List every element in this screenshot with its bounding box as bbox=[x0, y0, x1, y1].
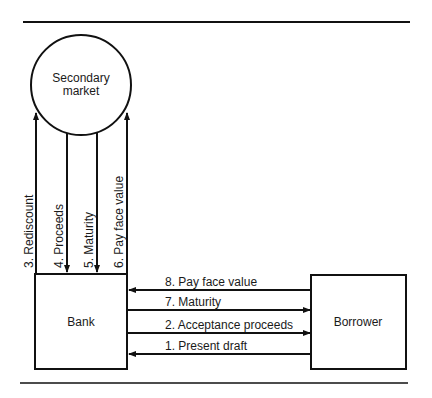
secondary-market-label-1: Secondary bbox=[52, 71, 109, 85]
label-pay-face-value-vertical: 6. Pay face value bbox=[112, 176, 126, 268]
label-acceptance-proceeds: 2. Acceptance proceeds bbox=[165, 318, 293, 332]
secondary-market-label-2: market bbox=[63, 84, 100, 98]
bank-node: Bank bbox=[35, 274, 127, 369]
bank-label: Bank bbox=[67, 315, 95, 329]
diagram-canvas: Secondary market 3. Rediscount 4. Procee… bbox=[0, 0, 432, 398]
label-maturity-vertical: 5. Maturity bbox=[82, 212, 96, 268]
label-rediscount: 3. Rediscount bbox=[22, 194, 36, 268]
borrower-label: Borrower bbox=[334, 315, 383, 329]
label-proceeds: 4. Proceeds bbox=[52, 204, 66, 268]
label-present-draft: 1. Present draft bbox=[165, 339, 248, 353]
borrower-node: Borrower bbox=[311, 275, 406, 369]
label-pay-face-value-horizontal: 8. Pay face value bbox=[165, 275, 257, 289]
label-maturity-horizontal: 7. Maturity bbox=[165, 295, 221, 309]
secondary-market-node: Secondary market bbox=[31, 35, 131, 135]
